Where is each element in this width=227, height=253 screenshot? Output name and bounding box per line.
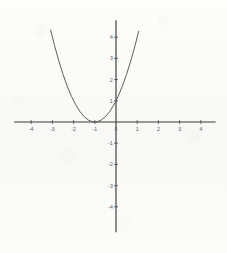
y-tick-label-4: 4 — [110, 34, 113, 40]
x-tick-label--3: -3 — [50, 126, 55, 132]
x-tick-label--2: -2 — [71, 126, 76, 132]
y-tick-label--3: -3 — [108, 183, 113, 189]
x-tick-label-2: 2 — [157, 126, 160, 132]
y-tick-label-1: 1 — [110, 98, 113, 104]
parabola-curve — [51, 30, 139, 122]
x-tick-label-1: 1 — [136, 126, 139, 132]
x-tick-label--4: -4 — [29, 126, 34, 132]
x-tick-label--1: -1 — [93, 126, 98, 132]
y-tick-label-3: 3 — [110, 55, 113, 61]
x-tick-label-3: 3 — [178, 126, 181, 132]
x-tick-label-4: 4 — [199, 126, 202, 132]
graph-figure: -4-3-2-101234-4-3-2-11234 — [0, 0, 227, 253]
y-tick-label--1: -1 — [108, 140, 113, 146]
y-tick-label--4: -4 — [108, 204, 113, 210]
coordinate-plane: -4-3-2-101234-4-3-2-11234 — [0, 0, 227, 253]
x-tick-label-0: 0 — [115, 126, 118, 132]
y-tick-label-2: 2 — [110, 77, 113, 83]
y-tick-label--2: -2 — [108, 161, 113, 167]
